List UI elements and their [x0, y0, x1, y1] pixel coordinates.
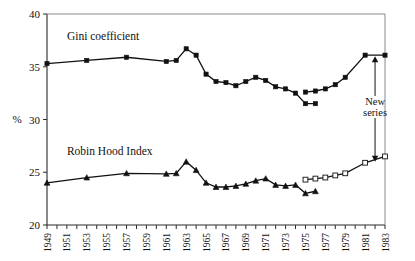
data-point-marker	[303, 102, 307, 106]
data-point-marker	[124, 55, 128, 59]
data-point-marker	[363, 53, 367, 57]
data-point-marker	[293, 91, 297, 95]
data-point-marker	[343, 75, 347, 79]
data-point-marker	[383, 154, 388, 159]
y-axis-tick-label: 40	[29, 8, 41, 20]
data-point-marker	[333, 173, 338, 178]
y-axis-tick-label: 25	[29, 166, 41, 178]
data-point-marker	[333, 83, 337, 87]
x-axis-tick-label: 1959	[142, 233, 152, 252]
data-point-marker	[343, 171, 348, 176]
data-point-marker	[194, 53, 198, 57]
data-point-marker	[254, 75, 258, 79]
x-axis-tick-label: 1951	[62, 233, 72, 252]
data-point-marker	[234, 84, 238, 88]
data-point-marker	[313, 102, 317, 106]
x-axis-tick-label: 1977	[321, 233, 331, 252]
data-point-marker	[303, 90, 307, 94]
data-point-marker	[313, 89, 317, 93]
data-point-marker	[264, 78, 268, 82]
data-point-marker	[184, 47, 188, 51]
x-axis-tick-label: 1969	[241, 233, 251, 252]
x-axis-tick-label: 1983	[381, 233, 391, 252]
data-point-marker	[85, 58, 89, 62]
chart-figure: 2025303540 19491951195319551957195919611…	[0, 0, 415, 261]
new-series-annotation-line1: New	[365, 96, 385, 107]
y-axis-unit-label: %	[12, 113, 21, 125]
x-axis-tick-label: 1949	[43, 233, 53, 252]
data-point-marker	[45, 61, 49, 65]
x-axis-tick-label: 1965	[202, 233, 212, 252]
data-point-marker	[274, 85, 278, 89]
x-axis-tick-label: 1981	[361, 233, 371, 252]
x-axis-tick-label: 1961	[162, 233, 172, 252]
data-point-marker	[323, 175, 328, 180]
data-point-marker	[204, 72, 208, 76]
x-axis-tick-label: 1975	[301, 233, 311, 252]
y-axis-tick-label: 30	[29, 114, 41, 126]
x-axis-tick-label: 1963	[182, 233, 192, 252]
x-axis-tick-label: 1953	[82, 233, 92, 252]
chart-background	[0, 0, 415, 261]
data-point-marker	[224, 80, 228, 84]
series-label: Gini coefficient	[67, 30, 140, 42]
data-point-marker	[323, 87, 327, 91]
data-point-marker	[283, 87, 287, 91]
new-series-annotation-line2: series	[363, 107, 387, 118]
data-point-marker	[174, 58, 178, 62]
data-point-marker	[244, 79, 248, 83]
x-axis-tick-label: 1955	[102, 233, 112, 252]
y-axis-tick-label: 35	[29, 61, 41, 73]
income-inequality-chart: 2025303540 19491951195319551957195919611…	[0, 0, 415, 261]
x-axis-tick-label: 1979	[341, 233, 351, 252]
data-point-marker	[363, 160, 368, 165]
data-point-marker	[313, 176, 318, 181]
x-axis-tick-label: 1971	[261, 233, 271, 252]
data-point-marker	[214, 79, 218, 83]
x-axis-tick-label: 1973	[281, 233, 291, 252]
data-point-marker	[164, 59, 168, 63]
y-axis-tick-label: 20	[29, 219, 41, 231]
data-point-marker	[303, 177, 308, 182]
x-axis-tick-label: 1967	[221, 233, 231, 252]
series-label: Robin Hood Index	[67, 145, 153, 157]
data-point-marker	[383, 53, 387, 57]
x-axis-tick-label: 1957	[122, 233, 132, 252]
